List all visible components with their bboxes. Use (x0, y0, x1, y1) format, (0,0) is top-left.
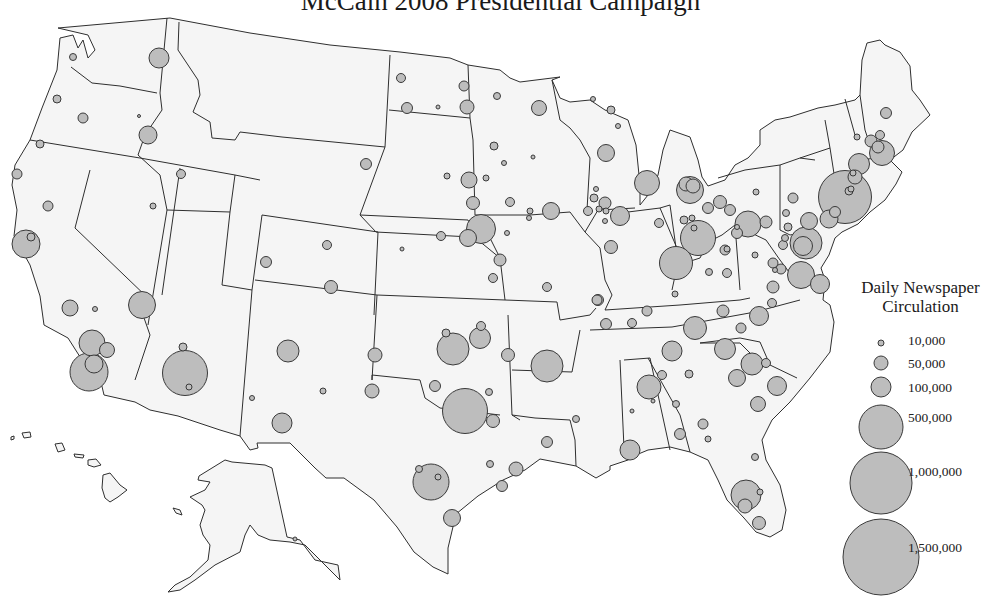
newspaper-circulation-bubble (490, 142, 498, 150)
newspaper-circulation-bubble (436, 105, 440, 109)
newspaper-circulation-bubble (487, 415, 500, 428)
newspaper-circulation-bubble (750, 307, 769, 326)
newspaper-circulation-bubble (662, 341, 682, 361)
newspaper-circulation-bubble (691, 225, 697, 231)
legend: Daily Newspaper Circulation 10,000 50,00… (840, 278, 1001, 602)
newspaper-circulation-bubble (596, 206, 602, 212)
newspaper-circulation-bubble (637, 375, 661, 399)
newspaper-circulation-bubble (680, 216, 688, 224)
newspaper-circulation-bubble (658, 371, 667, 380)
newspaper-circulation-bubble (179, 343, 187, 351)
newspaper-circulation-bubble (186, 384, 192, 390)
newspaper-circulation-bubble (607, 106, 615, 114)
newspaper-circulation-bubble (150, 203, 156, 209)
legend-label-1000000: 1,000,000 (908, 464, 962, 480)
newspaper-circulation-bubble (53, 95, 61, 103)
newspaper-circulation-bubble (706, 269, 713, 276)
newspaper-circulation-bubble (698, 419, 708, 429)
hawaii-big-island (102, 473, 127, 502)
newspaper-circulation-bubble (630, 409, 634, 413)
newspaper-circulation-bubble (272, 413, 292, 433)
newspaper-circulation-bubble (779, 241, 788, 250)
newspaper-circulation-bubble (773, 268, 778, 273)
newspaper-circulation-bubble (543, 283, 552, 292)
newspaper-circulation-bubble (43, 201, 53, 211)
newspaper-circulation-bubble (753, 517, 766, 530)
newspaper-circulation-bubble (397, 74, 406, 83)
newspaper-circulation-bubble (293, 537, 297, 541)
newspaper-circulation-bubble (729, 370, 746, 387)
newspaper-circulation-bubble (12, 230, 40, 258)
newspaper-circulation-bubble (783, 210, 790, 217)
alaska (168, 460, 340, 592)
newspaper-circulation-bubble (467, 197, 480, 210)
newspaper-circulation-bubble (62, 300, 78, 316)
newspaper-circulation-bubble (506, 198, 515, 207)
newspaper-circulation-bubble (590, 194, 598, 202)
newspaper-circulation-bubble (603, 219, 608, 224)
newspaper-circulation-bubble (584, 207, 593, 216)
newspaper-circulation-bubble (767, 281, 779, 293)
newspaper-circulation-bubble (85, 355, 103, 373)
newspaper-circulation-bubble (782, 235, 789, 242)
newspaper-circulation-bubble (592, 295, 602, 305)
newspaper-circulation-bubble (768, 377, 787, 396)
alaska-island (173, 508, 182, 515)
newspaper-circulation-bubble (12, 169, 22, 179)
newspaper-circulation-bubble (705, 436, 711, 442)
newspaper-circulation-bubble (753, 189, 759, 195)
newspaper-circulation-bubble (402, 103, 413, 114)
newspaper-circulation-bubble (416, 466, 423, 473)
legend-title-line2: Circulation (840, 297, 1001, 316)
newspaper-circulation-bubble (752, 252, 758, 258)
newspaper-circulation-bubble (757, 489, 763, 495)
newspaper-circulation-bubble (497, 481, 508, 492)
newspaper-circulation-bubble (689, 215, 695, 221)
newspaper-circulation-bubble (628, 319, 637, 328)
newspaper-circulation-bubble (459, 81, 469, 91)
newspaper-circulation-bubble (489, 274, 498, 283)
newspaper-circulation-bubble (673, 401, 680, 408)
newspaper-circulation-bubble (365, 384, 379, 398)
newspaper-circulation-bubble (139, 126, 157, 144)
newspaper-circulation-bubble (444, 510, 461, 527)
newspaper-circulation-bubble (435, 474, 441, 480)
newspaper-circulation-bubble (542, 437, 553, 448)
legend-title: Daily Newspaper Circulation (840, 278, 1001, 316)
newspaper-circulation-bubble (603, 208, 609, 214)
newspaper-circulation-bubble (752, 454, 759, 461)
newspaper-circulation-bubble (261, 257, 272, 268)
newspaper-circulation-bubble (461, 172, 477, 188)
alaska-outline (168, 460, 340, 592)
newspaper-circulation-bubble (616, 124, 621, 129)
newspaper-circulation-bubble (444, 173, 450, 179)
newspaper-circulation-bubble (598, 145, 615, 162)
newspaper-circulation-bubble (430, 381, 441, 392)
legend-label-10000: 10,000 (908, 333, 945, 349)
newspaper-circulation-bubble (250, 396, 255, 401)
hawaii-kauai (22, 432, 31, 438)
newspaper-circulation-bubble (442, 329, 450, 337)
newspaper-circulation-bubble (502, 349, 515, 362)
newspaper-circulation-bubble (400, 247, 404, 251)
newspaper-circulation-bubble (684, 317, 707, 340)
newspaper-circulation-bubble (100, 343, 115, 358)
newspaper-circulation-bubble (177, 170, 186, 179)
newspaper-circulation-bubble (36, 140, 44, 148)
newspaper-circulation-bubble (725, 205, 736, 216)
newspaper-circulation-bubble (494, 254, 506, 266)
newspaper-circulation-bubble (531, 350, 563, 382)
newspaper-circulation-bubble (443, 389, 488, 434)
newspaper-circulation-bubble (675, 429, 686, 440)
newspaper-circulation-bubble (642, 306, 652, 316)
legend-label-500000: 500,000 (908, 410, 952, 426)
hawaii-maui (88, 459, 101, 467)
newspaper-circulation-bubble (635, 171, 660, 196)
newspaper-circulation-bubble (361, 159, 372, 170)
newspaper-circulation-bubble (138, 115, 141, 118)
newspaper-circulation-bubble (505, 231, 510, 236)
newspaper-circulation-bubble (27, 233, 35, 241)
newspaper-circulation-bubble (486, 389, 493, 396)
legend-label-100000: 100,000 (908, 380, 952, 396)
newspaper-circulation-bubble (876, 131, 885, 140)
